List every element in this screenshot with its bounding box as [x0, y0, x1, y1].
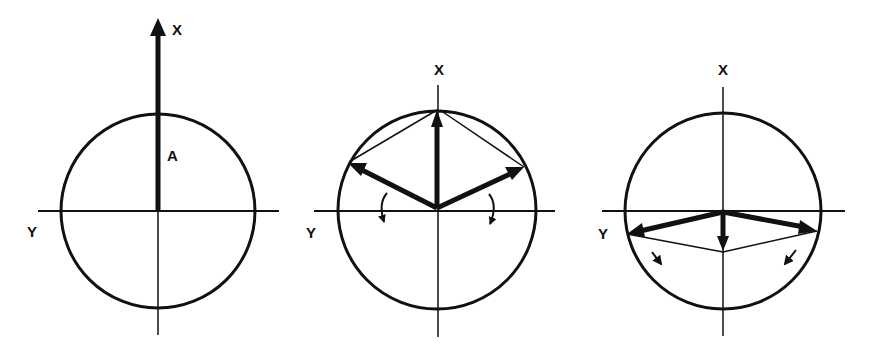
panel-2 — [314, 85, 555, 337]
panel-2-x-label: X — [434, 62, 444, 77]
rotation-arrow-right-icon — [489, 194, 494, 224]
rotation-arrow-left-icon — [382, 193, 387, 222]
vector-a-arrowhead-icon — [150, 18, 166, 36]
vector-left — [362, 170, 437, 208]
vector-right — [723, 212, 804, 227]
small-arrow-right-icon — [785, 250, 796, 264]
vector-right — [437, 174, 510, 208]
panel-3-x-label: X — [718, 62, 728, 77]
panel-1-vector-label: A — [167, 148, 178, 163]
panel-3 — [602, 87, 845, 336]
panel-2-y-label: Y — [306, 225, 316, 240]
panel-3-y-label: Y — [598, 226, 608, 241]
small-arrow-left-icon — [652, 252, 661, 264]
vector-left — [640, 212, 723, 231]
thin-left — [627, 234, 723, 252]
thin-right — [723, 231, 817, 252]
vector-down-arrowhead-icon — [717, 236, 729, 251]
panel-1-x-label: X — [172, 22, 182, 37]
thin-left — [349, 110, 437, 162]
panel-1 — [38, 18, 279, 335]
panel-1-y-label: Y — [27, 224, 37, 239]
diagram-canvas — [0, 0, 870, 349]
thin-right — [440, 110, 524, 167]
